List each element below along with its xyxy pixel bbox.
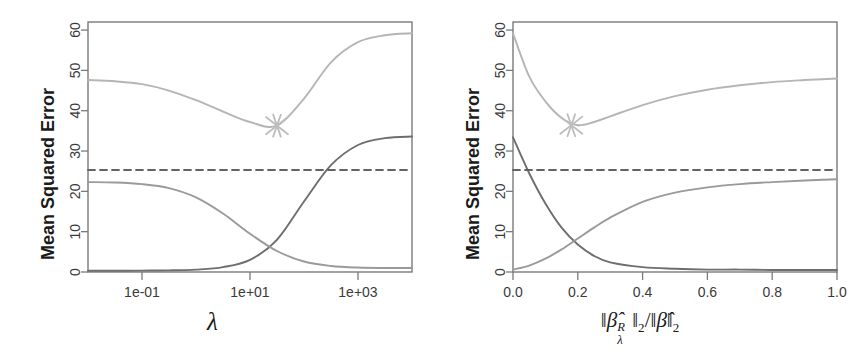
y-tick-label: 0 — [492, 268, 508, 276]
curve-squared-bias — [88, 137, 412, 271]
x-tick-label: 0.8 — [762, 284, 782, 300]
x-tick-label: 1.0 — [827, 284, 847, 300]
min-test-mse-marker — [266, 115, 288, 137]
beta-hat-ridge: β̂ — [607, 308, 617, 332]
y-tick-label: 40 — [67, 103, 83, 119]
y-tick-label: 0 — [67, 268, 83, 276]
beta-hat-ols: β̂ — [656, 308, 666, 332]
norm-subscript-2-b: 2 — [673, 320, 680, 335]
y-axis-title-right: Mean Squared Error — [463, 88, 484, 260]
y-tick-label: 30 — [492, 143, 508, 159]
plot-frame — [513, 22, 837, 272]
y-tick-label: 50 — [492, 62, 508, 78]
x-tick-label: 1e+03 — [338, 284, 378, 300]
y-tick-label: 30 — [67, 143, 83, 159]
chart-panel-right: 01020304050600.00.20.40.60.81.0 Mean Squ… — [425, 0, 855, 357]
plot-area-right: 01020304050600.00.20.40.60.81.0 — [425, 0, 855, 357]
y-tick-label: 60 — [492, 22, 508, 38]
curve-test-mse — [513, 33, 837, 125]
x-tick-label: 1e-01 — [124, 284, 160, 300]
x-axis-title-left: λ — [0, 308, 425, 336]
y-tick-label: 20 — [492, 183, 508, 199]
x-axis-title-right: ‖β̂Rλ‖2/‖β̂‖2 — [425, 308, 855, 336]
curve-test-mse — [88, 33, 412, 127]
y-tick-label: 50 — [67, 62, 83, 78]
y-tick-label: 20 — [67, 183, 83, 199]
y-tick-label: 10 — [67, 224, 83, 240]
x-tick-label: 0.2 — [568, 284, 588, 300]
chart-panel-left: 01020304050601e-011e+011e+03 Mean Square… — [0, 0, 425, 357]
x-tick-label: 1e+01 — [230, 284, 270, 300]
subscript-lambda: λ — [617, 333, 622, 348]
y-tick-label: 60 — [67, 22, 83, 38]
figure-container: 01020304050601e-011e+011e+03 Mean Square… — [0, 0, 855, 357]
y-tick-label: 40 — [492, 103, 508, 119]
y-tick-label: 10 — [492, 224, 508, 240]
curve-variance — [88, 182, 412, 268]
y-axis-title-left: Mean Squared Error — [38, 88, 59, 260]
curve-variance — [513, 179, 837, 269]
x-tick-label: 0.6 — [698, 284, 718, 300]
x-tick-label: 0.4 — [633, 284, 653, 300]
plot-area-left: 01020304050601e-011e+011e+03 — [0, 0, 425, 357]
x-tick-label: 0.0 — [503, 284, 523, 300]
